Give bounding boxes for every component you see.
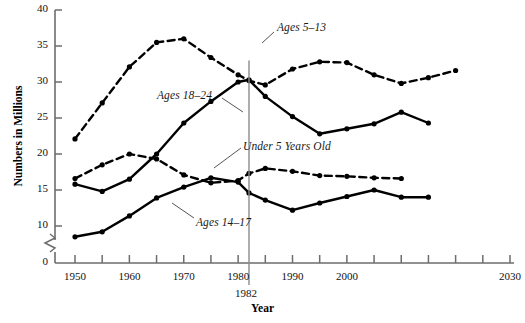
x-tick-label: 2030: [488, 270, 525, 282]
data-point: [127, 177, 132, 182]
data-point: [263, 198, 268, 203]
x-tick-label: 1950: [53, 270, 97, 282]
y-tick-label: 30: [22, 74, 48, 86]
data-point: [236, 180, 241, 185]
x-tick-label: 1990: [271, 270, 315, 282]
chart-figure: Numbers in Millions Year 010152025303540…: [0, 0, 525, 323]
x-tick-label: 1960: [107, 270, 151, 282]
data-point: [100, 189, 105, 194]
data-point: [317, 173, 322, 178]
data-point: [399, 110, 404, 115]
data-point: [208, 175, 213, 180]
data-point: [154, 151, 159, 156]
data-point: [317, 200, 322, 205]
annotation-1982-label: 1982: [235, 287, 257, 299]
data-point: [127, 213, 132, 218]
data-point: [208, 55, 213, 60]
chart-series-layer: [72, 32, 458, 239]
data-point: [290, 208, 295, 213]
data-point: [290, 66, 295, 71]
data-point: [127, 151, 132, 156]
data-point: [208, 180, 213, 185]
data-point: [317, 131, 322, 136]
data-point: [72, 136, 77, 141]
data-point: [399, 81, 404, 86]
data-point: [263, 166, 268, 171]
data-point: [181, 172, 186, 177]
data-point: [399, 195, 404, 200]
series-line-ages-14-17: [75, 178, 428, 237]
y-tick-label: 0: [22, 255, 48, 267]
data-point: [236, 72, 241, 77]
series-label-ages-18-24: Ages 18–24: [157, 89, 212, 101]
data-point: [372, 175, 377, 180]
data-point: [290, 169, 295, 174]
data-point: [263, 94, 268, 99]
data-point: [453, 68, 458, 73]
data-point: [344, 194, 349, 199]
data-point: [154, 40, 159, 45]
series-label-ages-5-13: Ages 5–13: [277, 21, 326, 33]
x-axis-title: Year: [0, 302, 525, 314]
data-point: [154, 195, 159, 200]
data-point: [72, 176, 77, 181]
data-point: [72, 234, 77, 239]
y-tick-label: 25: [22, 110, 48, 122]
data-point: [100, 162, 105, 167]
data-point: [426, 75, 431, 80]
series-line-ages-18-24: [75, 80, 428, 192]
data-point: [372, 121, 377, 126]
x-tick-label: 1970: [162, 270, 206, 282]
y-tick-label: 10: [22, 218, 48, 230]
data-point: [181, 36, 186, 41]
y-tick-label: 20: [22, 146, 48, 158]
data-point: [399, 176, 404, 181]
data-point: [181, 185, 186, 190]
series-label-under-5-years-old: Under 5 Years Old: [243, 140, 331, 152]
series-line-ages-5-13: [75, 39, 456, 139]
data-point: [426, 120, 431, 125]
data-point: [72, 182, 77, 187]
y-tick-label: 40: [22, 2, 48, 14]
data-point: [100, 229, 105, 234]
x-tick-label: 1980: [216, 270, 260, 282]
data-point: [154, 156, 159, 161]
data-point: [236, 79, 241, 84]
series-label-ages-14-17: Ages 14–17: [196, 216, 251, 228]
data-point: [100, 100, 105, 105]
data-point: [344, 60, 349, 65]
data-point: [127, 64, 132, 69]
data-point: [372, 187, 377, 192]
y-tick-label: 15: [22, 182, 48, 194]
data-point: [344, 126, 349, 131]
x-tick-label: 2000: [325, 270, 369, 282]
data-point: [317, 59, 322, 64]
data-point: [181, 120, 186, 125]
data-point: [344, 174, 349, 179]
data-point: [372, 72, 377, 77]
data-point: [263, 82, 268, 87]
data-point: [290, 114, 295, 119]
data-point: [426, 195, 431, 200]
y-tick-label: 35: [22, 38, 48, 50]
